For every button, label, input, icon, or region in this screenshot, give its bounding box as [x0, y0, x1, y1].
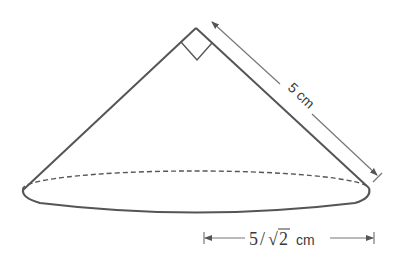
radius-label-radicand: 2 — [279, 229, 288, 249]
base-ellipse-hidden-edge — [23, 171, 369, 190]
radius-label-slash: / — [260, 229, 265, 249]
cone-left-slant — [23, 28, 196, 190]
radius-label: 5 / √ 2 cm — [249, 229, 315, 249]
slant-height-label: 5 cm — [285, 79, 318, 111]
right-angle-marker — [181, 42, 212, 60]
radius-label-number: 5 — [249, 229, 258, 249]
cone-diagram: 5 cm 5 / √ 2 cm — [0, 0, 406, 264]
base-ellipse-visible-edge — [23, 188, 370, 213]
cone-right-slant — [196, 28, 369, 188]
slant-dimension-end-tick — [373, 173, 382, 182]
radius-label-sqrt: √ — [268, 229, 278, 249]
radius-label-unit: cm — [296, 232, 315, 248]
